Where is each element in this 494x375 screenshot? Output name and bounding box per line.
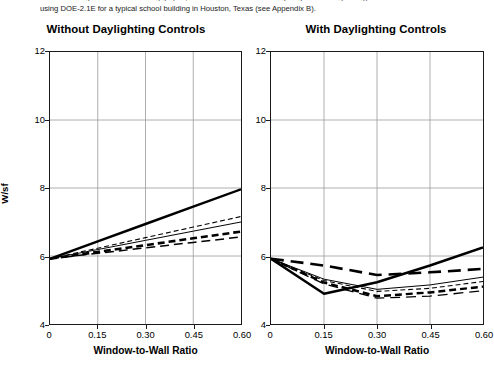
y-tick-label-12: 12	[19, 46, 45, 56]
x-tick-label-030: 0.30	[126, 330, 166, 340]
chart-panel-without-daylighting: Without Daylighting Controls W/sf	[0, 0, 256, 375]
y-tickmark-4-right	[266, 325, 270, 326]
chart-title-right: With Daylighting Controls	[268, 23, 484, 35]
y-tick-label-4-right: 4	[240, 320, 266, 330]
y-tickmark-8-right	[266, 188, 270, 189]
y-tickmark-4	[45, 325, 49, 326]
y-tick-label-12-right: 12	[240, 46, 266, 56]
y-tick-label-6-right: 6	[240, 252, 266, 262]
y-tick-label-8-right: 8	[240, 183, 266, 193]
y-tickmark-6	[45, 257, 49, 258]
x-tick-label-015-right: 0.15	[304, 330, 344, 340]
y-tick-label-10: 10	[19, 115, 45, 125]
chart-title-left: Without Daylighting Controls	[10, 23, 242, 35]
y-tickmark-10	[45, 120, 49, 121]
plot-area-right	[270, 51, 484, 325]
y-tick-label-4: 4	[19, 320, 45, 330]
plot-area-left	[49, 51, 242, 325]
y-tickmark-10-right	[266, 120, 270, 121]
x-axis-label-right: Window-to-Wall Ratio	[270, 345, 484, 356]
y-tickmark-12-right	[266, 51, 270, 52]
y-tickmark-8	[45, 188, 49, 189]
x-axis-label-left: Window-to-Wall Ratio	[49, 345, 242, 356]
plot-svg-left	[50, 52, 241, 324]
y-tickmark-6-right	[266, 257, 270, 258]
x-tick-label-015: 0.15	[77, 330, 117, 340]
x-tick-label-0-right: 0	[250, 330, 290, 340]
y-axis-label-left: W/sf	[0, 174, 10, 214]
x-tick-label-045-right: 0.45	[411, 330, 451, 340]
gridlines-left	[50, 52, 241, 324]
x-tick-label-030-right: 0.30	[357, 330, 397, 340]
y-tickmark-12	[45, 51, 49, 52]
x-tick-label-0: 0	[29, 330, 69, 340]
chart-panel-with-daylighting: With Daylighting Controls	[250, 0, 494, 375]
x-tick-label-045: 0.45	[174, 330, 214, 340]
plot-svg-right	[271, 52, 483, 324]
y-tick-label-10-right: 10	[240, 115, 266, 125]
y-tick-label-8: 8	[19, 183, 45, 193]
y-tick-label-6: 6	[19, 252, 45, 262]
x-tick-label-060-right: 0.60	[464, 330, 494, 340]
